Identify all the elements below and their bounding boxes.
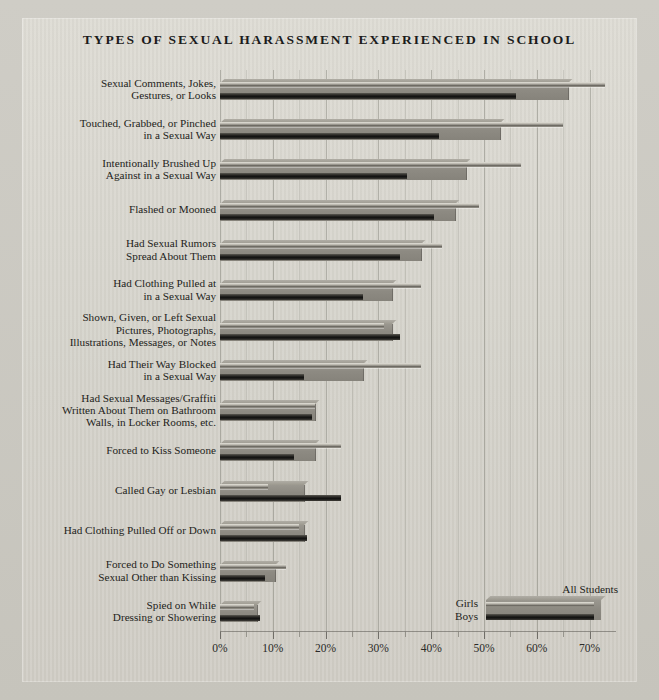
gridline-minor: [510, 70, 511, 632]
gridline-major: [273, 70, 274, 632]
category-label: Had Clothing Pulled atin a Sexual Way: [40, 277, 216, 302]
x-tick-minor: [352, 632, 353, 637]
gridline-minor: [299, 70, 300, 632]
gridline-major: [537, 70, 538, 632]
chart-paper-panel: Types of Sexual Harassment Experienced i…: [22, 18, 637, 682]
category-label-line: Forced to Do Something: [40, 558, 216, 570]
bar-boys: [220, 535, 307, 541]
category-label-line: Had Sexual Messages/Graffiti: [40, 392, 216, 404]
category-label: Called Gay or Lesbian: [40, 484, 216, 496]
x-tick-minor: [246, 632, 247, 637]
category-label-line: Against in a Sexual Way: [40, 169, 216, 181]
bar-boys: [220, 414, 312, 420]
x-tick-label: 20%: [315, 642, 336, 654]
legend-label-all-students: All Students: [562, 583, 618, 595]
chart-page: Types of Sexual Harassment Experienced i…: [0, 0, 659, 700]
category-label-line: Had Sexual Rumors: [40, 237, 216, 249]
category-label-line: Dressing or Showering: [40, 611, 216, 623]
legend-swatch-girls: [486, 602, 594, 607]
bar-girls: [220, 323, 384, 328]
category-label-line: Written About Them on Bathroom: [40, 404, 216, 416]
bar-girls: [220, 484, 268, 489]
bar-girls: [220, 604, 254, 609]
gridline-minor: [405, 70, 406, 632]
bar-girls: [220, 162, 521, 167]
gridline-minor: [352, 70, 353, 632]
category-label-line: Sexual Comments, Jokes,: [40, 77, 216, 89]
category-label: Had Clothing Pulled Off or Down: [40, 524, 216, 536]
x-tick-label: 10%: [262, 642, 283, 654]
gridline-major: [484, 70, 485, 632]
bar-girls: [220, 443, 341, 448]
bar-boys: [220, 93, 516, 99]
x-tick-major: [220, 632, 221, 639]
x-tick-major: [484, 632, 485, 639]
bar-girls: [220, 203, 479, 208]
x-tick-minor: [563, 632, 564, 637]
category-label-line: in a Sexual Way: [40, 290, 216, 302]
category-label-line: in a Sexual Way: [40, 370, 216, 382]
x-tick-minor: [299, 632, 300, 637]
gridline-major: [220, 70, 221, 632]
page-title: Types of Sexual Harassment Experienced i…: [22, 32, 637, 48]
x-tick-label: 50%: [473, 642, 494, 654]
category-axis-labels: Sexual Comments, Jokes,Gestures, or Look…: [40, 70, 216, 632]
category-label-line: Had Clothing Pulled at: [40, 277, 216, 289]
x-tick-label: 60%: [526, 642, 547, 654]
x-tick-minor: [405, 632, 406, 637]
gridline-major: [378, 70, 379, 632]
bar-girls: [220, 363, 421, 368]
bar-girls: [220, 82, 605, 87]
category-label: Had Sexual RumorsSpread About Them: [40, 237, 216, 262]
category-label-line: Illustrations, Messages, or Notes: [40, 336, 216, 348]
gridline-minor: [563, 70, 564, 632]
bar-boys: [220, 575, 265, 581]
plot-area: [220, 70, 616, 632]
gridline-major: [590, 70, 591, 632]
x-axis-ticks: [220, 632, 616, 642]
bar-girls: [220, 564, 286, 569]
gridline-major: [431, 70, 432, 632]
bar-boys: [220, 374, 304, 380]
category-label-line: Called Gay or Lesbian: [40, 484, 216, 496]
legend-label-boys: Boys: [420, 610, 478, 622]
bar-girls: [220, 243, 442, 248]
bar-boys: [220, 133, 439, 139]
category-label-line: Spread About Them: [40, 250, 216, 262]
x-tick-label: 0%: [212, 642, 227, 654]
category-label-line: Flashed or Mooned: [40, 203, 216, 215]
bar-boys: [220, 454, 294, 460]
category-label: Forced to Do SomethingSexual Other than …: [40, 558, 216, 583]
category-label-line: Had Clothing Pulled Off or Down: [40, 524, 216, 536]
bar-boys: [220, 173, 407, 179]
bar-girls: [220, 122, 563, 127]
x-tick-major: [590, 632, 591, 639]
bar-boys: [220, 214, 434, 220]
legend-swatch-boys: [486, 614, 594, 620]
category-label-line: Sexual Other than Kissing: [40, 571, 216, 583]
chart-legend: All Students Girls Boys: [420, 583, 620, 631]
category-label: Shown, Given, or Left SexualPictures, Ph…: [40, 311, 216, 348]
category-label: Touched, Grabbed, or Pinchedin a Sexual …: [40, 117, 216, 142]
bar-boys: [220, 294, 363, 300]
category-label-line: in a Sexual Way: [40, 129, 216, 141]
category-label: Forced to Kiss Someone: [40, 444, 216, 456]
category-label-line: Intentionally Brushed Up: [40, 157, 216, 169]
legend-label-girls: Girls: [420, 597, 478, 609]
category-label-line: Pictures, Photographs,: [40, 324, 216, 336]
category-label-line: Shown, Given, or Left Sexual: [40, 311, 216, 323]
category-label: Flashed or Mooned: [40, 203, 216, 215]
x-tick-major: [326, 632, 327, 639]
category-label: Sexual Comments, Jokes,Gestures, or Look…: [40, 77, 216, 102]
category-label-line: Gestures, or Looks: [40, 89, 216, 101]
category-label-line: Spied on While: [40, 599, 216, 611]
x-tick-label: 30%: [368, 642, 389, 654]
category-label: Intentionally Brushed UpAgainst in a Sex…: [40, 157, 216, 182]
category-label-line: Walls, in Locker Rooms, etc.: [40, 416, 216, 428]
x-tick-major: [378, 632, 379, 639]
gridline-minor: [458, 70, 459, 632]
bar-boys: [220, 615, 260, 621]
category-label: Spied on WhileDressing or Showering: [40, 599, 216, 624]
x-axis-tick-labels: 0%10%20%30%40%50%60%70%: [220, 642, 616, 660]
category-label: Had Sexual Messages/GraffitiWritten Abou…: [40, 392, 216, 429]
